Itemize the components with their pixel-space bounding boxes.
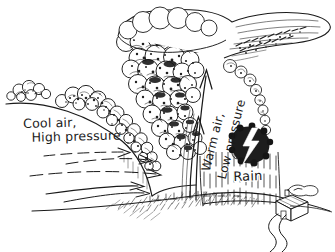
weather-diagram: Cool air, High pressure Warm air, Low pr… (0, 0, 335, 252)
diagram-canvas (0, 0, 335, 252)
